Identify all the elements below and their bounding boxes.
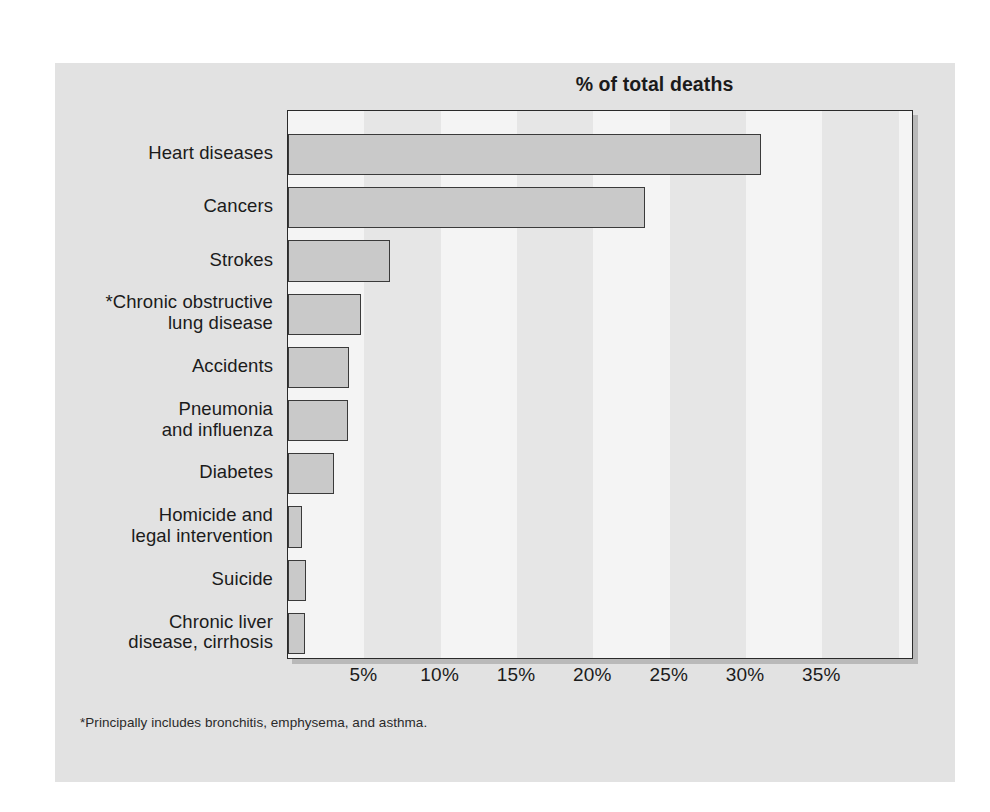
bar-row[interactable] [288, 187, 913, 228]
chart-panel: % of total deaths Heart diseasesCancersS… [55, 63, 955, 782]
x-axis-tick-label: 10% [420, 664, 459, 686]
bar-row[interactable] [288, 400, 913, 441]
y-axis-label: Chronic liverdisease, cirrhosis [55, 612, 273, 653]
bar-row[interactable] [288, 613, 913, 654]
y-axis-label-line: Pneumonia [55, 399, 273, 420]
bar[interactable] [288, 560, 306, 601]
y-axis-label-line: Strokes [55, 250, 273, 271]
bar-row[interactable] [288, 134, 913, 175]
chart-title: % of total deaths [342, 73, 967, 96]
x-axis-tick-labels: 5%10%15%20%25%30%35% [287, 664, 919, 698]
y-axis-label: *Chronic obstructivelung disease [55, 292, 273, 333]
y-axis-label-line: and influenza [55, 420, 273, 441]
chart-footnote: *Principally includes bronchitis, emphys… [80, 715, 427, 730]
y-axis-label-line: Cancers [55, 196, 273, 217]
y-axis-label-line: legal intervention [55, 526, 273, 547]
x-axis-tick-label: 25% [649, 664, 688, 686]
bar-row[interactable] [288, 347, 913, 388]
y-axis-category-labels: Heart diseasesCancersStrokes*Chronic obs… [55, 110, 281, 659]
y-axis-label: Homicide andlegal intervention [55, 505, 273, 546]
bar-row[interactable] [288, 560, 913, 601]
x-axis-tick-label: 15% [497, 664, 536, 686]
y-axis-label: Heart diseases [55, 143, 273, 164]
y-axis-label-line: *Chronic obstructive [55, 292, 273, 313]
bar[interactable] [288, 187, 645, 228]
y-axis-label: Cancers [55, 196, 273, 217]
y-axis-label-line: Homicide and [55, 505, 273, 526]
x-axis-tick-label: 20% [573, 664, 612, 686]
y-axis-label: Pneumoniaand influenza [55, 399, 273, 440]
y-axis-label-line: Diabetes [55, 462, 273, 483]
bar[interactable] [288, 240, 390, 281]
y-axis-label: Accidents [55, 356, 273, 377]
bar[interactable] [288, 506, 302, 547]
plot-wrapper [287, 110, 913, 659]
plot-area [287, 110, 913, 659]
y-axis-label-line: lung disease [55, 313, 273, 334]
bars-layer [288, 111, 912, 658]
bar-row[interactable] [288, 453, 913, 494]
bar[interactable] [288, 347, 349, 388]
bar[interactable] [288, 400, 348, 441]
y-axis-label: Suicide [55, 569, 273, 590]
y-axis-label-line: Chronic liver [55, 612, 273, 633]
bar-row[interactable] [288, 506, 913, 547]
y-axis-label: Diabetes [55, 462, 273, 483]
bar[interactable] [288, 453, 334, 494]
y-axis-label-line: disease, cirrhosis [55, 632, 273, 653]
y-axis-label-line: Heart diseases [55, 143, 273, 164]
y-axis-label: Strokes [55, 250, 273, 271]
x-axis-tick-label: 30% [726, 664, 765, 686]
bar[interactable] [288, 134, 761, 175]
bar-row[interactable] [288, 240, 913, 281]
x-axis-tick-label: 35% [802, 664, 841, 686]
y-axis-label-line: Accidents [55, 356, 273, 377]
bar[interactable] [288, 294, 361, 335]
y-axis-label-line: Suicide [55, 569, 273, 590]
bar-row[interactable] [288, 294, 913, 335]
x-axis-tick-label: 5% [349, 664, 377, 686]
bar[interactable] [288, 613, 305, 654]
